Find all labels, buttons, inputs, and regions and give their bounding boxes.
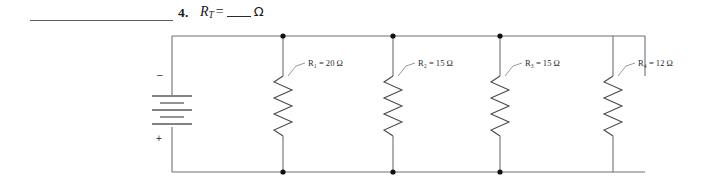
branch-r3: R₃ = 15 Ω	[491, 36, 560, 172]
worksheet-page: 4. RT=Ω – + R₁ = 20 Ω	[0, 0, 701, 188]
battery-positive-sign: +	[156, 133, 162, 144]
resistor-r2-zigzag	[384, 76, 402, 136]
junction-dots	[280, 33, 502, 174]
resistor-label-r3: R₃ = 15 Ω	[525, 58, 560, 68]
resistor-r1-zigzag	[274, 76, 292, 136]
battery-negative-sign: –	[157, 69, 163, 80]
branch-r4: R₄ = 12 Ω	[604, 36, 673, 172]
circuit-diagram: – + R₁ = 20 Ω R₂ = 15 Ω R₃ = 15 Ω	[0, 0, 701, 188]
leader-line-r3	[505, 63, 522, 76]
node-dot-top-2	[390, 33, 395, 38]
leader-line-r4	[618, 63, 635, 76]
node-dot-bottom-1	[280, 169, 285, 174]
node-dot-bottom-2	[390, 169, 395, 174]
resistor-label-r2: R₂ = 15 Ω	[418, 58, 453, 68]
node-dot-top-1	[280, 33, 285, 38]
branch-r1: R₁ = 20 Ω	[274, 36, 343, 172]
leader-line-r1	[288, 63, 305, 76]
node-dot-bottom-3	[497, 169, 502, 174]
resistor-label-r1: R₁ = 20 Ω	[308, 58, 343, 68]
leader-line-r2	[398, 63, 415, 76]
circuit-wires	[172, 36, 645, 172]
resistor-r3-zigzag	[491, 76, 509, 136]
branch-r2: R₂ = 15 Ω	[384, 36, 453, 172]
resistor-label-r4: R₄ = 12 Ω	[638, 58, 673, 68]
node-dot-top-3	[497, 33, 502, 38]
